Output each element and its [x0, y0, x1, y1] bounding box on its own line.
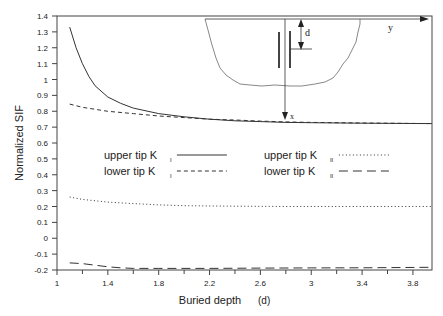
- y-tick-label: 0.2: [37, 203, 49, 212]
- inset-label-y: y: [388, 22, 393, 33]
- inset-label-d: d: [305, 27, 310, 38]
- y-tick-label: 0.1: [37, 218, 49, 227]
- y-tick-label: -0.1: [34, 250, 48, 259]
- inset-arrow-y-icon: [420, 16, 429, 22]
- y-tick-label: 0.5: [37, 155, 49, 164]
- y-tick-label: 1.4: [37, 12, 49, 21]
- y-tick-label: 1.2: [37, 44, 49, 53]
- inset-dim-arrow-up-icon: [298, 19, 304, 27]
- x-axis-symbol: (d): [258, 295, 270, 306]
- x-tick-label: 1.4: [102, 279, 114, 288]
- legend-subscript: II: [330, 173, 334, 179]
- y-tick-label: 1: [44, 76, 49, 85]
- y-tick-label: 0.8: [37, 107, 49, 116]
- y-tick-label: 0.4: [37, 171, 49, 180]
- legend-label: lower tip K: [264, 165, 316, 177]
- series-lines: [70, 27, 432, 268]
- series-dashed: [70, 104, 432, 124]
- y-tick-label: 1.3: [37, 28, 49, 37]
- x-tick-label: 3: [309, 279, 314, 288]
- x-tick-label: 1: [55, 279, 60, 288]
- legend-label: upper tip K: [104, 149, 158, 161]
- sif-chart: -0.2-0.100.10.20.30.40.50.60.70.80.911.1…: [0, 0, 443, 316]
- y-tick-label: -0.2: [34, 266, 48, 275]
- inset-domain-outline: [205, 19, 360, 86]
- y-tick-label: 0.3: [37, 187, 49, 196]
- y-axis-label: Normalized SIF: [13, 105, 25, 181]
- plot-frame: [57, 16, 432, 270]
- x-tick-label: 3.4: [357, 279, 369, 288]
- legend-subscript: II: [330, 157, 334, 163]
- series-longdash: [70, 263, 432, 269]
- chart-canvas: -0.2-0.100.10.20.30.40.50.60.70.80.911.1…: [0, 0, 443, 316]
- legend-subscript: I: [170, 157, 172, 163]
- y-tick-label: 0.7: [37, 123, 49, 132]
- y-tick-label: 0.6: [37, 139, 49, 148]
- y-tick-label: 0.9: [37, 91, 49, 100]
- series-dotted: [70, 197, 432, 207]
- x-tick-label: 3.8: [407, 279, 419, 288]
- inset-diagram: d y x: [205, 16, 429, 121]
- x-axis-label: Buried depth: [179, 294, 241, 306]
- x-tick-label: 2.6: [255, 279, 267, 288]
- x-tick-label: 2.2: [204, 279, 216, 288]
- inset-label-x: x: [290, 112, 294, 121]
- legend-label: upper tip K: [264, 149, 318, 161]
- legend: upper tip KIlower tip KIupper tip KIIlow…: [104, 149, 389, 179]
- legend-label: lower tip K: [104, 165, 156, 177]
- axes: -0.2-0.100.10.20.30.40.50.60.70.80.911.1…: [34, 12, 432, 288]
- legend-subscript: I: [170, 173, 172, 179]
- y-tick-label: 1.1: [37, 60, 49, 69]
- x-tick-label: 1.8: [153, 279, 165, 288]
- series-solid: [70, 27, 432, 124]
- inset-arrow-x-icon: [282, 112, 288, 120]
- y-tick-label: 0: [44, 234, 49, 243]
